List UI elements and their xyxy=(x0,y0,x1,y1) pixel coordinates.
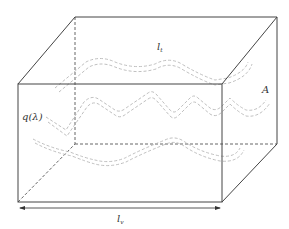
length-dimension xyxy=(19,206,221,210)
label-length: lv xyxy=(117,213,124,225)
top-left-depth-edge xyxy=(18,17,75,84)
bottom-right-depth-edge xyxy=(222,144,277,202)
bottom-tube xyxy=(33,138,244,166)
front-face xyxy=(18,84,222,202)
arrow-right-icon xyxy=(215,206,221,210)
hidden-edges xyxy=(18,17,277,202)
label-area: A xyxy=(261,84,269,95)
visible-edges xyxy=(18,17,277,202)
bottom-left-depth-edge xyxy=(18,144,75,202)
tubes xyxy=(33,59,270,166)
arrow-left-icon xyxy=(19,206,25,210)
middle-tube xyxy=(46,92,270,136)
label-top-path: lt xyxy=(157,41,163,53)
box-diagram: lt A q(λ) lv xyxy=(0,0,289,229)
label-flux: q(λ) xyxy=(22,111,43,122)
top-right-depth-edge xyxy=(222,17,277,84)
